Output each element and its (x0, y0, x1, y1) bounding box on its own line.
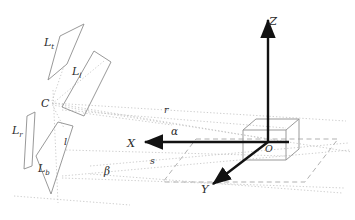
axis-y-arrow (213, 142, 268, 184)
camera-point-label: C (41, 97, 50, 110)
angle-beta-label: β (103, 165, 110, 177)
light-bottom-label-sub: b (45, 169, 50, 177)
ray-beta-lower (90, 174, 342, 193)
axis-z-label: Z (268, 14, 278, 28)
axis-x-label: X (126, 136, 136, 150)
distance-r-label: r (164, 104, 170, 115)
origin-label: O (265, 143, 273, 154)
ray-panel-left-edge (83, 113, 172, 125)
light-top-label-base: L (43, 36, 51, 49)
geometry-figure: Lt Ll Lr Lb C l r s α (0, 0, 355, 220)
light-right-panel[interactable] (24, 112, 35, 169)
light-left-label: Ll (71, 65, 82, 80)
cube-edge-top-left (243, 119, 256, 130)
light-top-label: Lt (43, 36, 54, 51)
projection-rays-group (14, 61, 352, 205)
light-right-label: Lr (11, 124, 23, 139)
light-bottom-panel[interactable] (36, 122, 73, 194)
light-left-label-sub: l (79, 72, 81, 80)
ray-upper-near (52, 105, 352, 152)
baseline-label: l (64, 136, 67, 147)
light-bottom-label: Lb (37, 162, 50, 177)
ray-upper-far (52, 103, 346, 121)
cube-back-edges (256, 119, 299, 149)
light-bottom-label-base: L (37, 162, 45, 175)
ray-camera-to-panel-bottom (54, 108, 64, 128)
light-right-label-base: L (11, 124, 19, 137)
light-left-label-base: L (71, 65, 79, 78)
distance-s-label: s (150, 155, 155, 166)
angle-alpha-label: α (171, 125, 178, 137)
ray-bottom-plane-tail (14, 196, 130, 205)
diagram-canvas: Lt Ll Lr Lb C l r s α (0, 0, 355, 220)
cube-edge-bottom-right (286, 149, 299, 160)
light-top-label-sub: t (51, 43, 54, 51)
light-right-label-sub: r (19, 131, 23, 139)
cube-edge-top-right (286, 119, 299, 130)
axis-y-label: Y (201, 182, 210, 196)
